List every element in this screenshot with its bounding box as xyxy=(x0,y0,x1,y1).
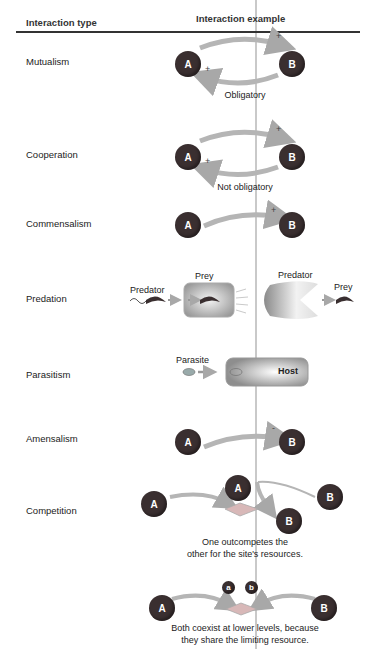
node-a-small: a xyxy=(222,581,235,594)
node-a: A xyxy=(175,212,201,238)
caption-competition-2: other for the site's resources. xyxy=(150,549,340,559)
node-a: A xyxy=(175,51,201,77)
arrow-b-to-a xyxy=(204,75,278,83)
flagellum-icon xyxy=(130,299,146,304)
label-predation: Predation xyxy=(26,293,67,304)
sign-plus: + xyxy=(271,205,276,215)
caption-competition-1: One outcompetes the xyxy=(160,537,330,547)
predator-bacterium-icon xyxy=(146,296,166,304)
resource-site-icon xyxy=(225,503,258,516)
sign-plus: + xyxy=(276,124,281,134)
prey-bacterium-icon xyxy=(336,296,354,304)
predator-cell xyxy=(264,281,318,319)
node-b: B xyxy=(279,212,305,238)
node-a: A xyxy=(175,429,201,455)
label-commensalism: Commensalism xyxy=(26,218,91,229)
node-b-displaced: B xyxy=(276,508,302,534)
node-a: A xyxy=(175,144,201,170)
sign-minus: - xyxy=(272,423,275,433)
caption-obligatory: Obligatory xyxy=(215,90,275,100)
resource-site-icon xyxy=(226,603,257,615)
caption-coexist-2: they share the limiting resource. xyxy=(150,635,340,645)
label-predator: Predator xyxy=(130,285,165,295)
node-a: A xyxy=(149,595,175,621)
label-prey: Prey xyxy=(195,271,214,281)
label-competition: Competition xyxy=(26,505,77,516)
label-amensalism: Amensalism xyxy=(26,433,78,444)
node-b-small: b xyxy=(245,581,258,594)
label-mutualism: Mutualism xyxy=(26,56,69,67)
node-b: B xyxy=(279,51,305,77)
label-predator: Predator xyxy=(278,270,313,280)
sign-plus: + xyxy=(205,156,210,166)
node-b: B xyxy=(279,429,305,455)
sign-plus: + xyxy=(205,64,210,74)
label-parasitism: Parasitism xyxy=(26,369,70,380)
parasite-icon xyxy=(183,369,195,376)
node-a-site: A xyxy=(225,475,251,501)
node-a: A xyxy=(141,491,167,517)
label-cooperation: Cooperation xyxy=(26,149,78,160)
sign-plus: + xyxy=(276,31,281,41)
label-prey: Prey xyxy=(334,282,353,292)
label-host: Host xyxy=(278,366,298,376)
label-parasite: Parasite xyxy=(176,355,209,365)
node-b: B xyxy=(317,484,343,510)
caption-not-obligatory: Not obligatory xyxy=(205,182,285,192)
caption-coexist-1: Both coexist at lower levels, because xyxy=(140,623,350,633)
node-b: B xyxy=(311,595,337,621)
node-b: B xyxy=(279,144,305,170)
arrow-a-to-b xyxy=(200,39,282,48)
